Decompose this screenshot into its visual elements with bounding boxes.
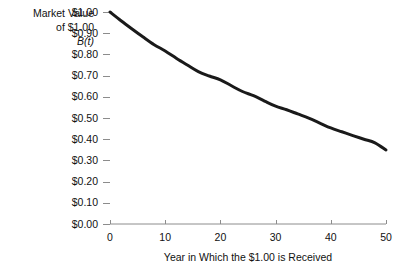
plot-area [0, 0, 404, 274]
series-line-0 [110, 12, 386, 150]
series-layer [110, 12, 386, 150]
axis-layer [103, 13, 387, 225]
chart-container: Market Value of $1.00 B(t) $0.00$0.10$0.… [0, 0, 404, 274]
x-axis-label: Year in Which the $1.00 is Received [110, 251, 386, 263]
